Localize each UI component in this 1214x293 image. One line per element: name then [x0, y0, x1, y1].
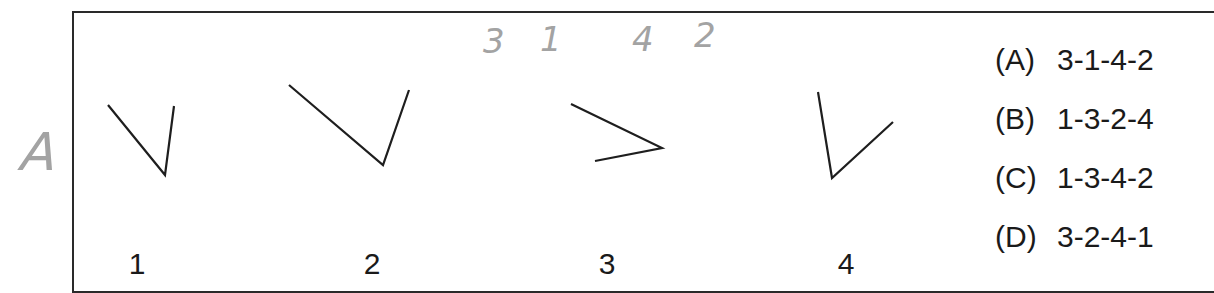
option-sequence: 3-2-4-1 — [1057, 219, 1154, 278]
option-sequence: 1-3-2-4 — [1057, 101, 1154, 160]
option-b[interactable]: (B) 1-3-2-4 — [995, 101, 1154, 160]
option-letter: (C) — [995, 160, 1057, 219]
figure-label-3: 3 — [587, 249, 627, 279]
option-sequence: 1-3-4-2 — [1057, 160, 1154, 219]
option-a[interactable]: (A) 3-1-4-2 — [995, 42, 1154, 101]
angle-figure-3 — [571, 104, 662, 161]
angle-figure-2 — [289, 85, 409, 165]
figure-label-1: 1 — [117, 249, 157, 279]
angle-figure-1 — [108, 105, 174, 175]
option-c[interactable]: (C) 1-3-4-2 — [995, 160, 1154, 219]
answer-options: (A) 3-1-4-2 (B) 1-3-2-4 (C) 1-3-4-2 (D) … — [995, 42, 1154, 278]
option-letter: (A) — [995, 42, 1057, 101]
option-sequence: 3-1-4-2 — [1057, 42, 1154, 101]
option-d[interactable]: (D) 3-2-4-1 — [995, 219, 1154, 278]
option-letter: (B) — [995, 101, 1057, 160]
figure-label-2: 2 — [352, 249, 392, 279]
angle-figure-4 — [818, 92, 893, 178]
option-letter: (D) — [995, 219, 1057, 278]
figure-label-4: 4 — [826, 249, 866, 279]
